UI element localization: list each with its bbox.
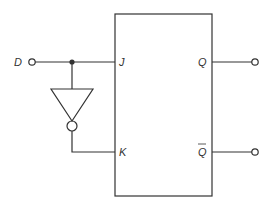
wire-inverter-to-k — [72, 131, 115, 152]
q-output-label: Q — [198, 56, 207, 68]
flipflop-block — [115, 14, 212, 196]
q-bar-output-label: Q — [198, 146, 207, 158]
output-terminal-q — [252, 59, 258, 65]
j-input-label: J — [118, 56, 125, 68]
input-terminal-d — [29, 59, 35, 65]
d-flipflop-diagram: D J K Q Q — [0, 0, 276, 208]
inverter-bubble — [67, 121, 77, 131]
inverter-triangle — [51, 89, 93, 121]
input-label-d: D — [14, 56, 22, 68]
k-input-label: K — [119, 146, 127, 158]
output-terminal-q-bar — [252, 149, 258, 155]
